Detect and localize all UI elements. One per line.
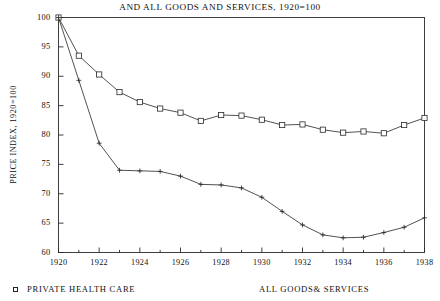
- data-point-square: [178, 110, 183, 115]
- data-point-square: [137, 100, 142, 105]
- axes-frame: [59, 18, 425, 253]
- data-point-square: [76, 53, 81, 58]
- y-tick-label: 75: [25, 159, 51, 168]
- data-point-plus: [280, 209, 285, 214]
- x-tick-label: 1938: [405, 258, 440, 267]
- data-point-square: [320, 127, 325, 132]
- data-point-plus: [239, 185, 244, 190]
- data-point-square: [219, 112, 224, 117]
- data-point-square: [117, 90, 122, 95]
- data-point-plus: [259, 195, 264, 200]
- y-tick-label: 65: [25, 218, 51, 227]
- legend-label: ALL GOODS& SERVICES: [259, 284, 369, 294]
- data-point-plus: [381, 230, 386, 235]
- chart-figure: AND ALL GOODS AND SERVICES, 1920=100 PRI…: [0, 0, 440, 301]
- data-point-square: [158, 106, 163, 111]
- data-point-plus: [76, 78, 81, 83]
- x-tick-label: 1928: [201, 258, 241, 267]
- data-point-plus: [422, 215, 427, 220]
- y-tick-label: 85: [25, 101, 51, 110]
- x-tick-label: 1926: [161, 258, 201, 267]
- x-tick-label: 1930: [242, 258, 282, 267]
- x-tick-label: 1922: [79, 258, 119, 267]
- data-point-plus: [198, 182, 203, 187]
- y-tick-label: 70: [25, 189, 51, 198]
- data-point-plus: [341, 235, 346, 240]
- data-point-plus: [402, 225, 407, 230]
- data-point-plus: [361, 235, 366, 240]
- data-point-square: [198, 118, 203, 123]
- y-tick-label: 100: [25, 13, 51, 22]
- data-point-plus: [137, 168, 142, 173]
- data-point-square: [341, 130, 346, 135]
- data-point-plus: [300, 222, 305, 227]
- data-point-square: [402, 122, 407, 127]
- plot-area: [0, 0, 440, 301]
- y-tick-label: 90: [25, 71, 51, 80]
- y-tick-label: 95: [25, 42, 51, 51]
- data-point-square: [239, 113, 244, 118]
- data-point-square: [97, 72, 102, 77]
- x-tick-label: 1932: [283, 258, 323, 267]
- y-axis-label: PRICE INDEX, 1920=100: [9, 55, 18, 215]
- data-point-square: [300, 122, 305, 127]
- y-tick-label: 80: [25, 130, 51, 139]
- x-tick-label: 1934: [323, 258, 363, 267]
- series-line-1: [59, 18, 425, 238]
- data-point-plus: [320, 232, 325, 237]
- x-tick-label: 1924: [120, 258, 160, 267]
- data-point-square: [259, 117, 264, 122]
- y-tick-label: 60: [25, 248, 51, 257]
- data-point-square: [381, 131, 386, 136]
- chart-title: AND ALL GOODS AND SERVICES, 1920=100: [0, 2, 440, 12]
- data-point-plus: [178, 174, 183, 179]
- data-point-square: [422, 115, 427, 120]
- x-tick-label: 1936: [364, 258, 404, 267]
- legend-marker-square: [13, 287, 18, 292]
- data-point-plus: [158, 169, 163, 174]
- x-tick-label: 1920: [39, 258, 79, 267]
- data-point-square: [280, 122, 285, 127]
- data-point-square: [361, 129, 366, 134]
- data-point-plus: [219, 183, 224, 188]
- legend-label: PRIVATE HEALTH CARE: [27, 284, 135, 294]
